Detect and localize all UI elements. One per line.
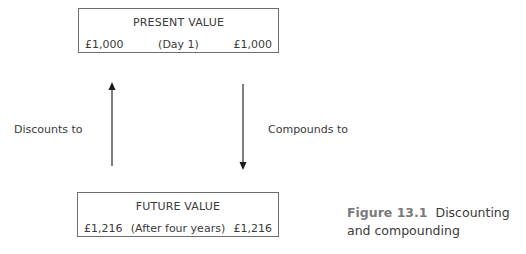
up-arrow-icon bbox=[106, 82, 118, 168]
compounds-to-label: Compounds to bbox=[268, 123, 348, 136]
future-value-box: FUTURE VALUE £1,216 (After four years) £… bbox=[77, 192, 279, 237]
figure-number: Figure 13.1 bbox=[347, 205, 428, 220]
present-value-box: PRESENT VALUE £1,000 (Day 1) £1,000 bbox=[78, 8, 279, 53]
future-right-value: £1,216 bbox=[234, 222, 273, 235]
discounts-to-label: Discounts to bbox=[14, 123, 83, 136]
future-value-title: FUTURE VALUE bbox=[78, 200, 278, 213]
down-arrow-icon bbox=[237, 84, 249, 170]
present-right-value: £1,000 bbox=[234, 38, 273, 51]
present-value-title: PRESENT VALUE bbox=[79, 16, 278, 29]
figure-caption: Figure 13.1 Discounting and compounding bbox=[347, 204, 526, 240]
